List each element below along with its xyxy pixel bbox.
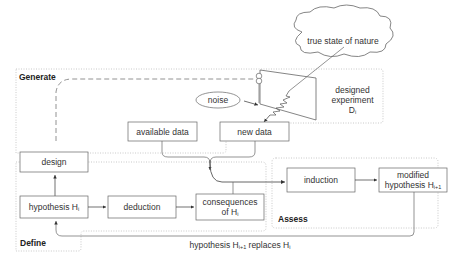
true-state-of-nature-node: true state of nature [298, 36, 388, 46]
designed-experiment-node: designed experiment Di [325, 85, 380, 117]
design-node: design [20, 157, 88, 167]
modified-hypothesis-node: modified hypothesis Hi+1 [379, 170, 447, 192]
available-data-node: available data [128, 127, 197, 137]
noise-node: noise [196, 95, 240, 105]
experiment-line1: designed [325, 85, 380, 95]
region-label-assess: Assess [278, 214, 308, 224]
consequences-line1: consequences [196, 197, 264, 207]
consequences-node: consequences of Hi [196, 197, 264, 219]
experiment-line2: experiment [325, 95, 380, 105]
experiment-frame [260, 70, 316, 120]
region-label-generate: Generate [19, 72, 56, 82]
hypothesis-node: hypothesis Hi [20, 202, 88, 214]
consequences-line2: of Hi [196, 207, 264, 219]
new-data-node: new data [220, 127, 289, 137]
induction-node: induction [287, 175, 355, 185]
modified-line1: modified [379, 170, 447, 180]
experiment-line3: Di [325, 105, 380, 117]
cloud-shape [294, 5, 393, 57]
deduction-node: deduction [108, 202, 176, 212]
region-label-define: Define [20, 238, 46, 248]
modified-line2: hypothesis Hi+1 [379, 180, 447, 192]
replace-edge-label: hypothesis Hi+1 replaces Hi [160, 240, 320, 252]
